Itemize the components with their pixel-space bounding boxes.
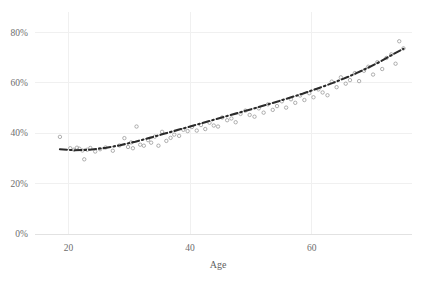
scatter-point xyxy=(248,113,251,116)
scatter-point xyxy=(135,125,138,128)
y-tick-label: 80% xyxy=(11,28,29,38)
scatter-point xyxy=(216,125,219,128)
x-axis-title: Age xyxy=(210,259,227,270)
scatter-point xyxy=(225,119,228,122)
y-tick-label: 40% xyxy=(11,128,29,138)
scatter-point xyxy=(157,144,160,147)
scatter-point xyxy=(271,108,274,111)
scatter-point xyxy=(142,144,145,147)
chart-canvas: 0%20%40%60%80% 204060 Age xyxy=(0,0,422,282)
scatter-point xyxy=(204,127,207,130)
scatter-point xyxy=(83,158,86,161)
trend-line xyxy=(60,49,404,150)
scatter-point xyxy=(58,135,61,138)
scatter-point xyxy=(149,141,152,144)
scatter-point xyxy=(371,73,374,76)
scatter-point xyxy=(326,94,329,97)
scatter-point xyxy=(312,96,315,99)
x-tick-label: 40 xyxy=(185,243,195,253)
scatter-point xyxy=(139,143,142,146)
scatter-point xyxy=(111,149,114,152)
scatter-point xyxy=(169,136,172,139)
scatter-point xyxy=(381,67,384,70)
scatter-point xyxy=(275,104,278,107)
scatter-point xyxy=(126,145,129,148)
scatter-point xyxy=(165,139,168,142)
trend-curve xyxy=(60,49,404,150)
scatter-point xyxy=(303,98,306,101)
scatter-point xyxy=(131,147,134,150)
scatter-point xyxy=(321,91,324,94)
x-gridlines xyxy=(68,12,311,234)
scatter-chart: 0%20%40%60%80% 204060 Age xyxy=(0,0,422,282)
y-tick-label: 20% xyxy=(11,179,29,189)
scatter-point xyxy=(230,117,233,120)
scatter-point xyxy=(186,129,189,132)
scatter-point xyxy=(284,106,287,109)
scatter-point xyxy=(123,136,126,139)
y-tick-labels: 0%20%40%60%80% xyxy=(11,28,29,240)
y-gridlines xyxy=(35,32,412,234)
scatter-point xyxy=(294,101,297,104)
y-tick-label: 0% xyxy=(15,229,28,239)
scatter-points xyxy=(58,40,405,161)
scatter-point xyxy=(398,40,401,43)
x-tick-label: 60 xyxy=(307,243,317,253)
scatter-point xyxy=(394,62,397,65)
x-tick-label: 20 xyxy=(64,243,74,253)
scatter-point xyxy=(253,115,256,118)
scatter-point xyxy=(195,129,198,132)
scatter-point xyxy=(177,134,180,137)
scatter-point xyxy=(212,124,215,127)
y-tick-label: 60% xyxy=(11,78,29,88)
scatter-point xyxy=(94,150,97,153)
scatter-point xyxy=(234,121,237,124)
scatter-point xyxy=(335,85,338,88)
scatter-point xyxy=(348,78,351,81)
x-tick-labels: 204060 xyxy=(64,243,317,253)
scatter-point xyxy=(262,111,265,114)
